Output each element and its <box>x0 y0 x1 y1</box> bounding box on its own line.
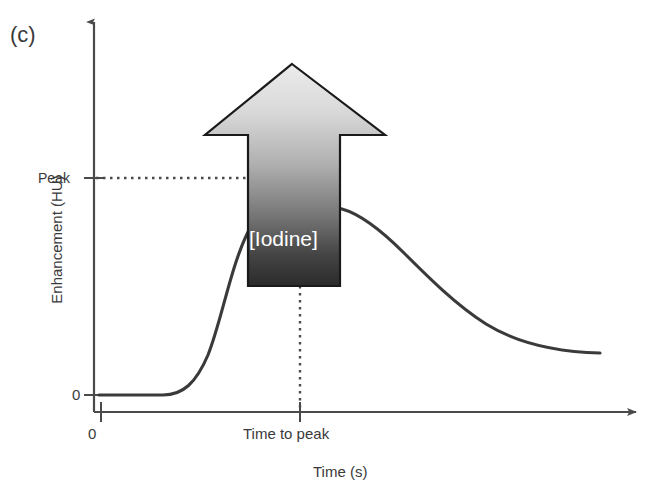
y-tick-label-zero: 0 <box>72 387 80 402</box>
x-axis-title: Time (s) <box>313 464 367 479</box>
enhancement-curve <box>99 205 600 395</box>
x-tick-label-time-to-peak: Time to peak <box>243 426 329 441</box>
y-tick-label-peak: Peak <box>38 171 70 185</box>
figure-panel-c: (c) Enhancement (HU) Peak 0 0 Time to pe… <box>0 0 653 500</box>
panel-label: (c) <box>10 24 36 46</box>
iodine-arrow <box>205 64 385 286</box>
iodine-arrow-label: [Iodine] <box>249 228 318 249</box>
x-tick-label-zero: 0 <box>88 426 96 441</box>
